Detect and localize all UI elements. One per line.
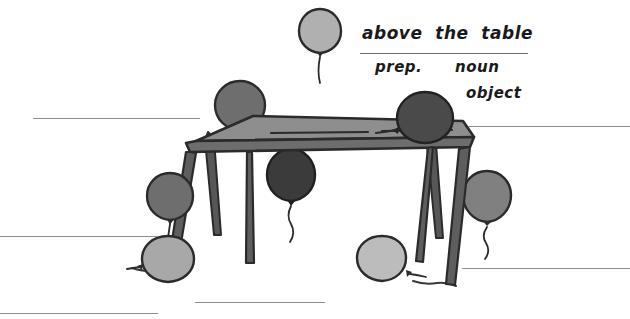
label-preposition: prep. [375,58,422,76]
answer-line-left-top[interactable] [33,118,200,119]
balloon-left-upper [147,173,193,238]
label-object: object [466,84,521,102]
balloon-right [463,171,511,259]
phrase-underline [360,53,528,54]
phrase-label: above the table [362,23,533,43]
balloon-table-illustration [0,0,630,319]
balloon-left-lower [127,236,194,282]
label-noun: noun [455,58,499,76]
answer-line-right-bottom[interactable] [462,268,630,269]
answer-line-left-middle[interactable] [0,236,157,237]
balloon-under-table [267,149,315,242]
balloon-floating-top [299,9,341,83]
worksheet-canvas: above the table prep. noun object [0,0,630,319]
answer-line-right-top[interactable] [468,126,630,127]
answer-line-bottom-center[interactable] [195,302,325,303]
answer-line-bottom-left[interactable] [0,313,158,314]
